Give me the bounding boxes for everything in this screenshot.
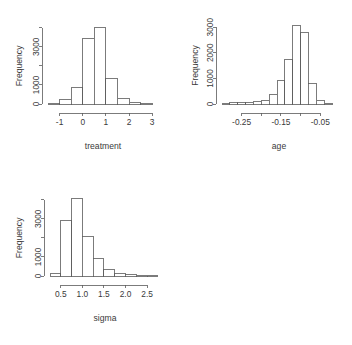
y-axis-title: Frequency xyxy=(190,45,200,86)
histogram-bar xyxy=(71,87,83,104)
histogram-bar xyxy=(106,78,118,104)
y-axis-tick-label: 3000 xyxy=(205,17,215,36)
treatment-histogram-svg: 010003000Frequency-10123treatment xyxy=(0,0,176,172)
x-axis-tick-label: 2.0 xyxy=(120,289,132,299)
y-axis-tick-label: 0 xyxy=(33,273,43,278)
x-axis-tick-label: 2 xyxy=(127,117,132,127)
x-axis-tick-label: -0.15 xyxy=(271,117,290,127)
y-axis-tick-label: 2000 xyxy=(205,43,215,62)
histogram-bar xyxy=(94,28,106,104)
histogram-bar xyxy=(125,275,136,276)
histogram-bar xyxy=(141,103,153,104)
histogram-bar xyxy=(136,275,147,276)
x-axis-tick-label: 3 xyxy=(150,117,155,127)
histogram-panel-age: 0100020003000Frequency-0.25-0.15-0.05age xyxy=(176,0,352,172)
histogram-bar xyxy=(115,273,126,276)
histogram-bar xyxy=(285,59,293,104)
histogram-bar xyxy=(147,275,158,276)
histogram-bar xyxy=(269,94,277,104)
histogram-bar xyxy=(324,103,332,104)
x-axis-tick-label: 1 xyxy=(104,117,109,127)
histogram-bar xyxy=(277,81,285,104)
histogram-bar xyxy=(61,221,72,276)
histogram-bar xyxy=(60,100,72,104)
histogram-bar xyxy=(82,237,93,276)
histogram-bar xyxy=(261,100,269,104)
x-axis-title: age xyxy=(272,141,287,151)
histogram-bar xyxy=(50,274,61,276)
y-axis-title: Frequency xyxy=(14,217,24,258)
sigma-histogram-svg: 010003000Frequency0.51.01.52.02.5sigma xyxy=(0,172,176,344)
histogram-panel-treatment: 010003000Frequency-10123treatment xyxy=(0,0,176,172)
x-axis-title: treatment xyxy=(85,141,122,151)
histogram-bar xyxy=(253,102,261,104)
histogram-bar xyxy=(230,103,238,104)
histogram-bar xyxy=(83,38,95,104)
histogram-bar xyxy=(238,103,246,104)
x-axis-title: sigma xyxy=(94,313,117,323)
x-axis-tick-label: 2.5 xyxy=(141,289,153,299)
x-axis-tick-label: -0.05 xyxy=(311,117,330,127)
histogram-bar xyxy=(72,199,83,276)
histogram-bar xyxy=(117,98,129,104)
x-axis-tick-label: 1.0 xyxy=(77,289,89,299)
x-axis-tick-label: 0.5 xyxy=(55,289,67,299)
histogram-bar xyxy=(104,270,115,276)
histogram-panel-sigma: 010003000Frequency0.51.01.52.02.5sigma xyxy=(0,172,176,344)
histogram-bar xyxy=(93,259,104,276)
histogram-bar xyxy=(301,32,309,104)
histogram-bar xyxy=(293,26,301,104)
x-axis-tick-label: -1 xyxy=(56,117,64,127)
y-axis-tick-label: 0 xyxy=(31,101,41,106)
y-axis-tick-label: 1000 xyxy=(33,247,43,266)
histogram-bar xyxy=(246,102,254,104)
y-axis-tick-label: 3000 xyxy=(31,37,41,56)
y-axis-tick-label: 1000 xyxy=(31,75,41,94)
x-axis-tick-label: -0.25 xyxy=(232,117,251,127)
histogram-bar xyxy=(48,103,60,104)
y-axis-title: Frequency xyxy=(14,45,24,86)
histogram-bar xyxy=(308,84,316,105)
x-axis-tick-label: 0 xyxy=(80,117,85,127)
y-axis-tick-label: 3000 xyxy=(33,209,43,228)
y-axis-tick-label: 0 xyxy=(205,101,215,106)
histogram-bar xyxy=(222,103,230,104)
age-histogram-svg: 0100020003000Frequency-0.25-0.15-0.05age xyxy=(176,0,352,172)
y-axis-tick-label: 1000 xyxy=(205,69,215,88)
histogram-bar xyxy=(129,102,141,104)
x-axis-tick-label: 1.5 xyxy=(98,289,110,299)
histogram-bar xyxy=(316,100,324,104)
